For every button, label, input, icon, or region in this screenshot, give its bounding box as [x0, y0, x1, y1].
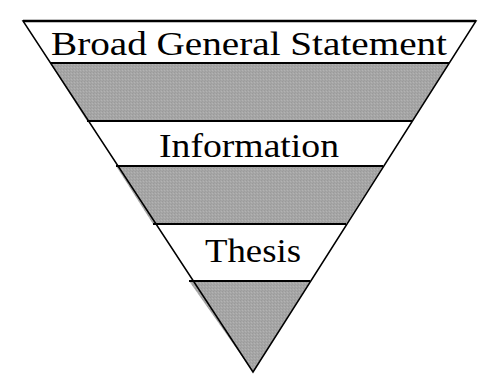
label-thesis: Thesis [205, 233, 301, 269]
label-information: Information [159, 128, 339, 164]
label-broad-general-statement: Broad General Statement [51, 26, 447, 62]
band-shaded-tip [189, 281, 310, 372]
band-shaded-1 [50, 63, 449, 121]
inverted-triangle-diagram: Broad General Statement Information Thes… [0, 0, 495, 392]
band-shaded-2 [116, 166, 383, 224]
